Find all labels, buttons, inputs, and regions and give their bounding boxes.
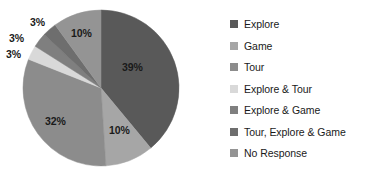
legend-item-label: Explore & Tour bbox=[244, 83, 312, 95]
pie-slice-value-label: 3% bbox=[9, 33, 24, 44]
pie-slice-value-label: 10% bbox=[109, 125, 130, 136]
pie-slice-value-label: 3% bbox=[6, 49, 21, 60]
legend-item-label: Explore bbox=[244, 18, 279, 30]
legend-item-label: Explore & Game bbox=[244, 104, 320, 116]
legend-swatch-icon bbox=[230, 20, 238, 28]
legend-item[interactable]: No Response bbox=[230, 142, 367, 164]
legend-swatch-icon bbox=[230, 63, 238, 71]
legend-item-label: Tour bbox=[244, 61, 264, 73]
pie-slice-value-label: 32% bbox=[45, 116, 66, 127]
legend-item[interactable]: Tour bbox=[230, 56, 367, 78]
pie-slice-value-label: 39% bbox=[122, 62, 143, 73]
legend-item[interactable]: Explore & Game bbox=[230, 99, 367, 121]
legend-item[interactable]: Game bbox=[230, 35, 367, 57]
pie-slice-value-label: 3% bbox=[30, 17, 45, 28]
pie-slice-value-label: 10% bbox=[71, 28, 92, 39]
legend-swatch-icon bbox=[230, 106, 238, 114]
legend-swatch-icon bbox=[230, 85, 238, 93]
legend-swatch-icon bbox=[230, 128, 238, 136]
chart-legend: ExploreGameTourExplore & TourExplore & G… bbox=[210, 11, 367, 164]
legend-item-label: No Response bbox=[244, 147, 307, 159]
pie-plot-area: 39%10%32%3%3%3%10% bbox=[0, 0, 210, 175]
legend-item[interactable]: Explore & Tour bbox=[230, 78, 367, 100]
pie-chart-figure: 39%10%32%3%3%3%10% ExploreGameTourExplor… bbox=[0, 0, 367, 175]
legend-swatch-icon bbox=[230, 42, 238, 50]
legend-item[interactable]: Tour, Explore & Game bbox=[230, 121, 367, 143]
legend-swatch-icon bbox=[230, 149, 238, 157]
legend-item[interactable]: Explore bbox=[230, 13, 367, 35]
legend-item-label: Tour, Explore & Game bbox=[244, 126, 346, 138]
legend-item-label: Game bbox=[244, 40, 272, 52]
